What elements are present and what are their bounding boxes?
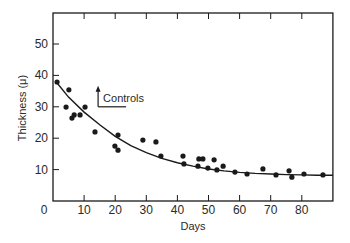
data-point [289,175,294,180]
y-tick-label: 50 [35,37,49,51]
data-point [66,87,71,92]
data-point [205,165,210,170]
controls-label: Controls [103,92,144,104]
data-point [232,170,237,175]
arrow-up-icon [96,86,101,92]
x-tick-label: 30 [140,203,154,217]
data-point [115,132,120,137]
x-axis-title: Days [180,220,206,232]
x-tick-label: 80 [295,203,309,217]
data-point [286,168,291,173]
data-point [273,172,278,177]
data-point [82,105,87,110]
data-point [320,172,325,177]
x-tick-label: 0 [41,203,48,217]
data-point [158,153,163,158]
x-tick-label: 10 [77,203,91,217]
data-point [153,139,158,144]
data-point [140,137,145,142]
data-point [77,112,82,117]
data-point [214,167,219,172]
x-tick-label: 70 [264,203,278,217]
x-tick-label: 20 [109,203,123,217]
data-point [112,143,117,148]
data-point [92,129,97,134]
y-tick-label: 30 [35,100,49,114]
data-point [200,156,205,161]
x-tick-label: 40 [171,203,185,217]
data-point [72,112,77,117]
plot-frame [53,13,333,201]
x-tick-label: 60 [233,203,247,217]
thickness-chart: 010203040506070801020304050 Controls Day… [0,0,350,243]
data-point [211,157,216,162]
data-point [244,171,249,176]
y-tick-label: 20 [35,131,49,145]
controls-annotation: Controls [96,86,145,107]
data-points [54,79,325,179]
plot-border [53,13,333,201]
data-point [195,164,200,169]
y-axis-title: Thickness (μ) [16,75,28,141]
y-tick-label: 40 [35,68,49,82]
data-point [221,164,226,169]
data-point [260,166,265,171]
data-point [54,79,59,84]
data-point [180,153,185,158]
data-point [115,148,120,153]
y-tick-label: 10 [35,163,49,177]
data-point [63,105,68,110]
data-point [301,171,306,176]
data-point [181,161,186,166]
x-tick-label: 50 [202,203,216,217]
